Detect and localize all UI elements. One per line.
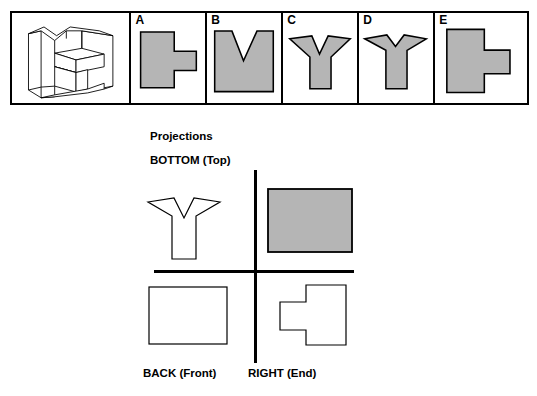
option-e-shape-icon (435, 13, 527, 103)
option-a-shape-icon (131, 13, 205, 103)
projection-right-end-shape (258, 277, 368, 359)
panel-option-d[interactable]: D (359, 13, 435, 103)
quadrant-horizontal-divider (154, 270, 354, 273)
option-b-shape-icon (207, 13, 281, 103)
label-back-front: BACK (Front) (143, 367, 216, 380)
panel-option-e[interactable]: E (435, 13, 527, 103)
projections-diagram: Projections BOTTOM (Top) BACK (Front) RI… (0, 105, 537, 396)
label-right-end: RIGHT (End) (248, 367, 316, 380)
option-d-shape-icon (359, 13, 433, 103)
answer-options-strip: A B C D E (10, 11, 529, 105)
option-c-shape-icon (283, 13, 357, 103)
label-bottom-top: BOTTOM (Top) (150, 154, 231, 167)
projection-back-front-shape (140, 277, 250, 359)
panel-option-c[interactable]: C (283, 13, 359, 103)
projection-top-right-shape (258, 177, 368, 267)
isometric-object-icon (12, 13, 129, 103)
panel-pictorial-object[interactable] (12, 13, 131, 103)
projections-title: Projections (150, 130, 213, 143)
projection-bottom-top-shape (140, 177, 250, 267)
quadrant-vertical-divider (254, 170, 257, 363)
panel-option-b[interactable]: B (207, 13, 283, 103)
panel-option-a[interactable]: A (131, 13, 207, 103)
